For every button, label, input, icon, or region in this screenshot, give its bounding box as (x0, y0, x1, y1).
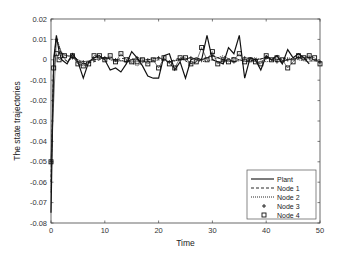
legend-label: Node 4 (277, 212, 300, 219)
legend-label: Plant (277, 176, 293, 183)
y-tick-label: -0.04 (30, 137, 47, 146)
y-tick-label: 0 (43, 55, 47, 64)
y-tick-label: -0.07 (30, 198, 47, 207)
x-tick-label: 20 (154, 226, 162, 235)
y-tick-label: -0.01 (30, 76, 47, 85)
y-axis-label: The state trajectories (12, 81, 22, 160)
x-tick-label: 40 (262, 226, 270, 235)
y-tick-label: -0.08 (30, 219, 47, 228)
x-tick-label: 50 (316, 226, 324, 235)
y-tick-label: -0.06 (30, 178, 47, 187)
y-tick-label: 0.02 (32, 15, 47, 24)
x-axis-label: Time (176, 238, 195, 248)
legend-label: Node 2 (277, 194, 300, 201)
legend-label: Node 1 (277, 185, 300, 192)
state-trajectories-chart: 010203040500.020.010-0.01-0.02-0.03-0.04… (0, 0, 342, 259)
y-tick-label: 0.01 (32, 35, 47, 44)
y-tick-label: -0.05 (30, 157, 47, 166)
legend: PlantNode 1Node 2Node 3Node 4 (247, 170, 316, 219)
x-tick-label: 0 (49, 226, 53, 235)
y-tick-label: -0.02 (30, 96, 47, 105)
x-tick-label: 10 (101, 226, 109, 235)
x-tick-label: 30 (208, 226, 216, 235)
legend-label: Node 3 (277, 203, 300, 210)
y-tick-label: -0.03 (30, 117, 47, 126)
